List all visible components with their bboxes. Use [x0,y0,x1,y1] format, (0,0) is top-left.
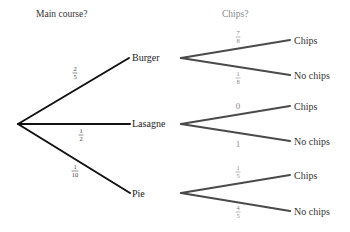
prob-pie-nochips: 4 5 [236,204,241,219]
svg-text:1: 1 [236,70,239,77]
svg-text:1: 1 [236,164,239,171]
svg-text:1: 1 [79,127,82,134]
svg-text:8: 8 [236,78,239,85]
prob-lasagne-nochips: 1 [236,139,241,149]
node-burger: Burger [132,52,160,63]
probability-tree-diagram: Main course? Chips? Burger Lasagne Pie 2… [0,0,350,232]
svg-text:7: 7 [236,29,240,36]
branch-pie [18,124,130,193]
svg-text:1: 1 [73,163,76,170]
prob-lasagne-chips: 0 [236,101,241,111]
prob-burger-chips: 7 8 [236,29,241,44]
header-main-course: Main course? [36,9,87,19]
node-lasagne: Lasagne [132,118,166,129]
svg-text:5: 5 [236,212,239,219]
node-pie-nochips: No chips [294,206,330,217]
prob-lasagne: 1 2 [79,127,84,142]
level2-branches [181,40,290,211]
node-pie-chips: Chips [294,170,317,181]
prob-pie: 1 10 [72,163,79,178]
svg-text:5: 5 [236,172,239,179]
prob-pie-chips: 1 5 [236,164,241,179]
header-chips: Chips? [222,9,248,19]
svg-text:2: 2 [73,65,76,72]
svg-text:2: 2 [79,135,82,142]
svg-text:5: 5 [73,73,76,80]
svg-text:8: 8 [236,37,239,44]
node-pie: Pie [132,188,145,199]
node-lasagne-chips: Chips [294,101,317,112]
node-burger-nochips: No chips [294,70,330,81]
svg-text:4: 4 [236,204,240,211]
svg-text:10: 10 [72,171,79,178]
node-burger-chips: Chips [294,35,317,46]
node-lasagne-nochips: No chips [294,136,330,147]
prob-burger-nochips: 1 8 [236,70,241,85]
prob-burger: 2 5 [73,65,78,80]
